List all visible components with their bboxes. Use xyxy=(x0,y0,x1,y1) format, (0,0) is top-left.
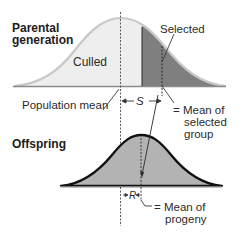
population-mean-label: Population mean xyxy=(22,99,108,111)
offspring-curve xyxy=(61,135,222,186)
progeny-mean-pointer xyxy=(141,200,152,206)
selected-mean-label-line2: selected xyxy=(184,116,227,128)
progeny-mean-label-line2: progeny xyxy=(165,213,207,225)
offspring-distribution xyxy=(60,135,223,201)
r-label: R xyxy=(129,190,136,202)
selected-mean-label-line3: group xyxy=(184,128,213,140)
selected-mean-label-line1: = Mean of xyxy=(173,104,224,116)
offspring-title: Offspring xyxy=(12,138,66,150)
selected-label: Selected xyxy=(160,23,205,35)
culled-label: Culled xyxy=(73,56,107,68)
s-label: S xyxy=(136,95,144,107)
selected-mean-pointer xyxy=(162,86,174,103)
progeny-mean-label-line1: = Mean of xyxy=(154,201,205,213)
parental-title-line2: generation xyxy=(12,34,73,46)
selection-response-diagram: Parental generation Culled Selected Popu… xyxy=(0,0,244,235)
